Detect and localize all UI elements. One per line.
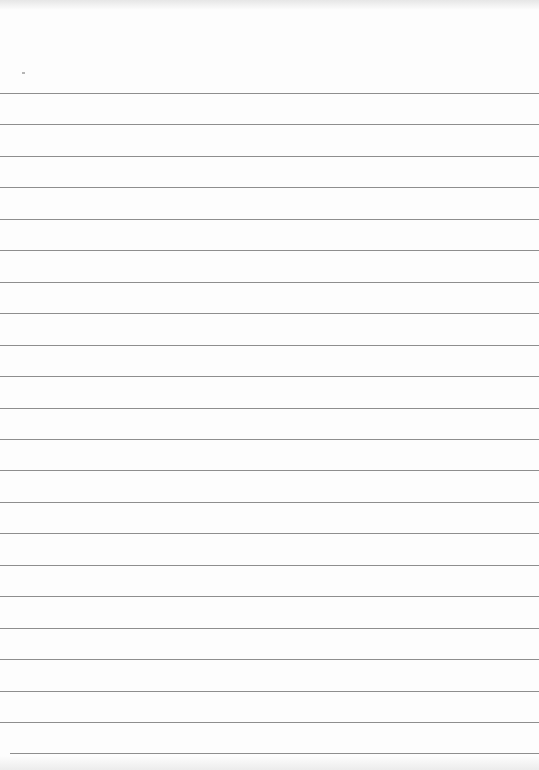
ruled-line [0,93,539,94]
ruled-line [0,408,539,409]
paper-speck [22,72,25,74]
ruled-line [0,124,539,125]
ruled-line [0,187,539,188]
ruled-line [0,439,539,440]
ruled-line [0,156,539,157]
ruled-line [0,502,539,503]
ruled-line [0,313,539,314]
ruled-line [0,565,539,566]
lined-paper-sheet [0,0,539,770]
top-shadow [0,0,539,10]
bottom-shadow [0,756,539,770]
ruled-line [0,628,539,629]
ruled-line [0,533,539,534]
ruled-line [0,282,539,283]
ruled-line [0,345,539,346]
ruled-line [0,596,539,597]
ruled-line [0,376,539,377]
ruled-line [0,659,539,660]
ruled-line [0,219,539,220]
ruled-line [0,250,539,251]
ruled-line [0,470,539,471]
ruled-line [0,722,539,723]
ruled-line [0,691,539,692]
ruled-line [10,753,539,754]
